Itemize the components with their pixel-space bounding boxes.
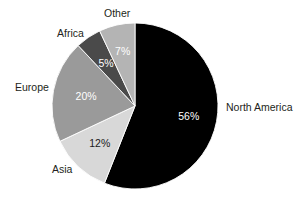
pie-chart: 56%12%20%5%7% Other Africa Europe Asia N… xyxy=(0,0,300,205)
pie-value-north-america: 56% xyxy=(178,110,199,122)
category-label-asia: Asia xyxy=(52,164,72,175)
category-label-europe: Europe xyxy=(15,82,49,93)
category-label-north-america: North America xyxy=(226,102,293,113)
pie-slices xyxy=(52,23,218,189)
pie-value-africa: 5% xyxy=(99,57,114,69)
pie-value-europe: 20% xyxy=(76,90,97,102)
pie-value-other: 7% xyxy=(115,45,130,57)
category-label-africa: Africa xyxy=(57,28,84,39)
category-label-other: Other xyxy=(104,8,130,19)
pie-value-asia: 12% xyxy=(89,137,110,149)
